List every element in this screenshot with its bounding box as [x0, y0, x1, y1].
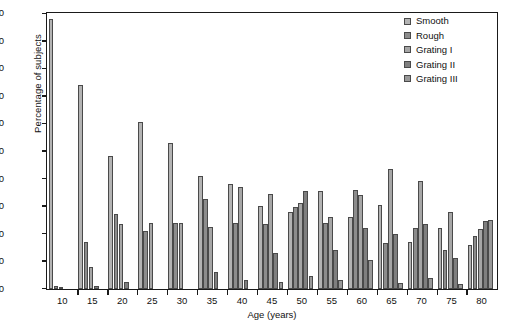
bar-rough [143, 231, 148, 289]
bar-rough [473, 236, 478, 288]
y-tick-mark [42, 150, 46, 151]
y-tick-mark [42, 40, 46, 41]
y-tick-label: 10 [0, 256, 4, 266]
x-tick-label: 75 [446, 296, 457, 306]
x-tick-label: 35 [207, 296, 218, 306]
x-tick-mark [107, 290, 108, 295]
bar-smooth [258, 206, 263, 289]
bar-grating-iii [279, 282, 284, 289]
x-tick-label: 15 [87, 296, 98, 306]
bar-grating-iii [458, 284, 463, 288]
bar-group [227, 13, 257, 288]
bar-group [47, 13, 77, 288]
bar-grating-iii [309, 276, 314, 288]
x-tick-mark [466, 290, 467, 295]
chart-legend: SmoothRoughGrating IGrating IIGrating II… [404, 14, 458, 86]
bar-group [317, 13, 347, 288]
bar-grating-ii [303, 191, 308, 289]
x-tick-mark [407, 290, 408, 295]
x-tick-mark [437, 290, 438, 295]
bar-rough [293, 207, 298, 288]
legend-item-label: Grating I [416, 45, 452, 55]
bar-grating-ii [333, 250, 338, 289]
bar-rough [114, 214, 119, 288]
bar-grating-i [89, 267, 94, 289]
bar-group [137, 13, 167, 288]
x-tick-label: 70 [416, 296, 427, 306]
bar-rough [233, 223, 238, 289]
bar-rough [263, 224, 268, 289]
bar-grating-i [388, 169, 393, 289]
legend-item: Smooth [404, 14, 458, 28]
bar-group [257, 13, 287, 288]
y-tick-label: 40 [0, 174, 4, 184]
legend-swatch-icon [404, 32, 411, 39]
bar-rough [84, 242, 89, 289]
bar-grating-i [328, 217, 333, 289]
bar-group [197, 13, 227, 288]
x-tick-label: 30 [177, 296, 188, 306]
x-tick-label: 25 [147, 296, 158, 306]
bar-grating-ii [273, 253, 278, 289]
bar-group [167, 13, 197, 288]
bar-smooth [228, 184, 233, 289]
legend-item-label: Smooth [416, 16, 449, 26]
y-tick-label: 90 [0, 36, 4, 46]
bar-smooth [198, 176, 203, 289]
y-tick-mark [42, 233, 46, 234]
x-tick-label: 60 [356, 296, 367, 306]
legend-item: Grating III [404, 72, 458, 86]
y-tick-mark [42, 288, 46, 289]
y-tick-mark [42, 123, 46, 124]
x-tick-label: 40 [237, 296, 248, 306]
x-tick-mark [257, 290, 258, 295]
y-tick-label: 50 [0, 146, 4, 156]
y-tick-label: 70 [0, 91, 4, 101]
bar-rough [54, 286, 59, 289]
x-tick-mark [317, 290, 318, 295]
bar-grating-i [149, 223, 154, 289]
x-tick-mark [287, 290, 288, 295]
x-tick-label: 10 [57, 296, 68, 306]
legend-item: Rough [404, 28, 458, 42]
bar-smooth [438, 228, 443, 289]
y-tick-mark [42, 95, 46, 96]
x-axis-title: Age (years) [46, 309, 498, 320]
legend-item-label: Rough [416, 31, 444, 41]
bar-chart-figure: Percentage of subjects 01020304050607080… [0, 0, 509, 330]
bar-grating-ii [94, 286, 99, 289]
bar-grating-i [59, 287, 64, 289]
bar-rough [413, 228, 418, 289]
bar-grating-i [358, 195, 363, 289]
bar-grating-ii [244, 280, 249, 288]
y-axis-title: Percentage of subjects [32, 4, 43, 164]
x-tick-mark [137, 290, 138, 295]
bar-grating-ii [214, 272, 219, 289]
bar-grating-iii [398, 283, 403, 289]
bar-smooth [318, 191, 323, 289]
y-tick-mark [42, 205, 46, 206]
bar-group [287, 13, 317, 288]
bar-grating-i [478, 229, 483, 288]
x-tick-label: 45 [267, 296, 278, 306]
bar-smooth [378, 205, 383, 289]
legend-swatch-icon [404, 18, 411, 25]
y-tick-label: 20 [0, 229, 4, 239]
bar-smooth [138, 122, 143, 288]
bar-smooth [288, 212, 293, 289]
bar-smooth [348, 217, 353, 289]
y-tick-mark [42, 68, 46, 69]
bar-grating-iii [428, 278, 433, 289]
bar-grating-iii [488, 220, 493, 289]
bar-group [347, 13, 377, 288]
bar-grating-iii [338, 280, 343, 288]
bar-grating-iii [368, 260, 373, 289]
bar-rough [173, 223, 178, 289]
y-tick-label: 100 [0, 8, 4, 18]
bar-grating-ii [483, 221, 488, 288]
bar-rough [353, 190, 358, 289]
x-tick-mark [377, 290, 378, 295]
bar-grating-i [418, 181, 423, 288]
bar-grating-i [208, 227, 213, 289]
bar-grating-i [448, 212, 453, 289]
